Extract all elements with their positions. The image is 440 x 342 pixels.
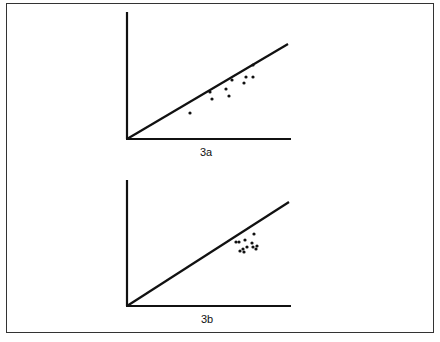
- data-point: [252, 232, 255, 235]
- data-point: [234, 240, 237, 243]
- data-point: [208, 90, 211, 93]
- data-point: [188, 111, 191, 114]
- data-point: [224, 87, 227, 90]
- panel-label-3b: 3b: [201, 313, 213, 325]
- data-point: [241, 247, 244, 250]
- data-point: [238, 249, 241, 252]
- data-point: [242, 81, 245, 84]
- data-point: [244, 75, 247, 78]
- data-point: [242, 250, 245, 253]
- panel-3a: [126, 12, 291, 139]
- data-point: [254, 247, 257, 250]
- data-point: [243, 238, 246, 241]
- panel-3b: [126, 180, 291, 306]
- figure-graphics: [0, 0, 440, 342]
- panel-label-3a: 3a: [200, 146, 212, 158]
- data-point: [250, 241, 253, 244]
- data-point: [251, 75, 254, 78]
- data-point: [230, 78, 233, 81]
- data-point: [251, 245, 254, 248]
- data-point: [210, 97, 213, 100]
- data-point: [251, 63, 254, 66]
- data-point: [245, 245, 248, 248]
- data-point: [255, 244, 258, 247]
- data-point: [227, 94, 230, 97]
- data-point: [237, 240, 240, 243]
